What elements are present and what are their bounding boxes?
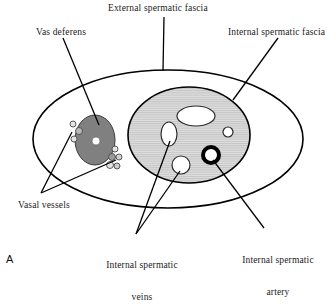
label-external-spermatic-fascia: External spermatic fascia — [108, 3, 208, 14]
vasal-vessel — [114, 163, 120, 169]
vasal-vessel — [116, 154, 122, 160]
vasal-vessel — [109, 154, 116, 161]
label-internal-spermatic-artery-line2: artery — [232, 287, 324, 298]
panel-label-a: A — [6, 253, 13, 265]
internal-spermatic-vein — [177, 106, 215, 126]
external-spermatic-fascia-leader — [163, 17, 164, 71]
vas-deferens-lumen — [92, 137, 100, 145]
label-internal-spermatic-veins-line1: Internal spermatic — [96, 260, 188, 271]
vasal-vessel — [76, 128, 83, 135]
internal-spermatic-artery-structure — [203, 147, 219, 163]
label-internal-spermatic-veins: Internal spermatic veins — [96, 239, 188, 304]
label-vasal-vessels: Vasal vessels — [18, 200, 70, 211]
label-internal-spermatic-veins-line2: veins — [96, 292, 188, 303]
label-internal-spermatic-artery: Internal spermatic artery — [232, 234, 324, 304]
label-vas-deferens: Vas deferens — [36, 27, 86, 38]
internal-spermatic-vein — [223, 127, 233, 137]
internal-spermatic-vein — [172, 156, 190, 174]
vasal-vessel — [71, 136, 77, 142]
label-internal-spermatic-fascia: Internal spermatic fascia — [228, 27, 325, 38]
vasal-vessel — [112, 146, 118, 152]
vasal-vessel — [70, 121, 76, 127]
label-internal-spermatic-artery-line1: Internal spermatic — [232, 255, 324, 266]
